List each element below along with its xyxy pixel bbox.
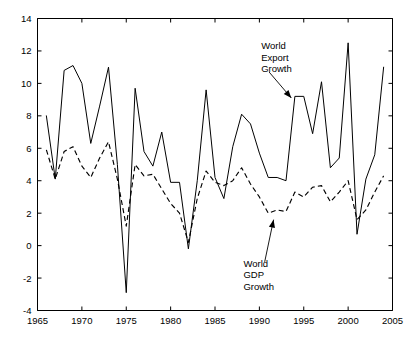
line-chart: 196519701975198019851990199520002005 -4-… [0, 0, 416, 342]
y-tick-label: 14 [21, 13, 32, 24]
x-tick-label: 1975 [116, 315, 137, 326]
annotation-label-world-gdp-growth: Growth [243, 281, 274, 292]
annotation-label-world-export-growth: World [261, 40, 286, 51]
x-tick-label: 2000 [338, 315, 359, 326]
series-line-world-gdp-growth [46, 142, 383, 243]
series-line-world-export-growth [46, 43, 383, 293]
y-tick-label: 2 [26, 208, 31, 219]
y-tick-label: -2 [23, 273, 31, 284]
y-tick-label: -4 [23, 305, 31, 316]
x-tick-label: 2005 [382, 315, 403, 326]
axes [38, 19, 393, 311]
y-tick-label: 8 [26, 110, 31, 121]
y-tick-label: 6 [26, 143, 31, 154]
y-tick-label: 12 [21, 45, 32, 56]
y-axis-ticks: -4-202468101214 [21, 13, 393, 316]
x-tick-label: 1995 [293, 315, 314, 326]
y-tick-label: 4 [26, 175, 31, 186]
y-tick-label: 10 [21, 78, 32, 89]
x-tick-label: 1980 [160, 315, 181, 326]
annotation-arrowhead-world-gdp-growth [269, 220, 275, 228]
annotation-label-world-gdp-growth: GDP [243, 269, 264, 280]
chart-figure: 196519701975198019851990199520002005 -4-… [0, 0, 416, 342]
x-tick-label: 1965 [27, 315, 48, 326]
annotation-label-world-gdp-growth: World [243, 258, 268, 269]
data-series [46, 43, 383, 293]
x-tick-label: 1985 [204, 315, 225, 326]
x-tick-label: 1990 [249, 315, 270, 326]
annotations: WorldExportGrowthWorldGDPGrowth [243, 40, 291, 291]
annotation-label-world-export-growth: Growth [261, 63, 292, 74]
plot-frame [38, 19, 393, 311]
x-tick-label: 1970 [71, 315, 92, 326]
annotation-label-world-export-growth: Export [261, 52, 289, 63]
y-tick-label: 0 [26, 240, 31, 251]
